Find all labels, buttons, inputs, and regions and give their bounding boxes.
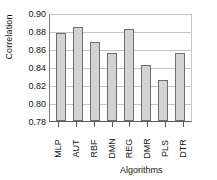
bar-slot (155, 15, 172, 121)
x-axis-tick-label: DMN (108, 132, 117, 166)
x-axis-tick-label: DTR (179, 132, 188, 166)
x-axis-tick (112, 122, 113, 127)
bar-series (50, 15, 191, 121)
x-axis-tick (76, 122, 77, 127)
bar (141, 65, 151, 121)
bar (90, 42, 100, 121)
bar (175, 53, 185, 121)
bar-slot (138, 15, 155, 121)
bar-slot (121, 15, 138, 121)
bar (107, 53, 117, 121)
y-axis-tick-label: 0.80 (18, 100, 46, 109)
bar-slot (86, 15, 103, 121)
bar (124, 29, 134, 121)
x-axis-title: Algorithms (120, 166, 163, 175)
y-axis-title: Correlation (4, 0, 14, 74)
x-axis-tick (147, 122, 148, 127)
y-axis-tick-label: 0.82 (18, 82, 46, 91)
bar (73, 27, 83, 121)
bar (56, 33, 66, 121)
x-axis-tick-label: REG (125, 132, 134, 166)
bar (158, 80, 168, 121)
y-axis-tick-labels: 0.900.880.860.840.820.800.78 (18, 14, 46, 122)
bar-slot (69, 15, 86, 121)
bar-slot (103, 15, 120, 121)
x-axis-ticks (49, 122, 192, 127)
y-axis-tick-label: 0.88 (18, 28, 46, 37)
bar-chart-figure: Correlation 0.900.880.860.840.820.800.78… (0, 0, 217, 180)
x-axis-tick-label: PLS (161, 132, 170, 166)
y-axis-tick-label: 0.90 (18, 10, 46, 19)
x-axis-tick (129, 122, 130, 127)
x-axis-tick (94, 122, 95, 127)
x-axis-tick-labels: MLPAUTRBFDMNREGDMRPLSDTR (49, 128, 192, 162)
x-axis-tick-label: RBF (90, 132, 99, 166)
x-axis-tick-label: AUT (72, 132, 81, 166)
bar-slot (172, 15, 189, 121)
y-axis-tick-label: 0.78 (18, 118, 46, 127)
y-axis-tick-label: 0.84 (18, 64, 46, 73)
y-axis-tick-label: 0.86 (18, 46, 46, 55)
x-axis-tick (183, 122, 184, 127)
x-axis-tick (165, 122, 166, 127)
x-axis-tick-label: DMR (143, 132, 152, 166)
x-axis-tick-label: MLP (54, 132, 63, 166)
plot-area (49, 14, 192, 122)
bar-slot (52, 15, 69, 121)
x-axis-tick (58, 122, 59, 127)
